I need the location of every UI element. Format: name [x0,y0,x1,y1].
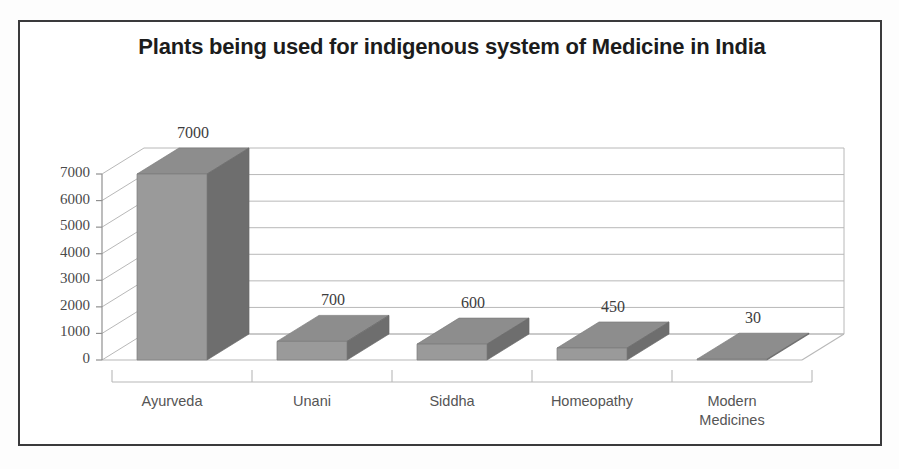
bar-side-face-0 [207,148,249,360]
bar-front-face-2 [417,344,487,360]
y-tick-label-2000: 2000 [30,297,90,314]
plot-area: 01000200030004000500060007000 AyurvedaUn… [20,22,884,448]
y-tick-label-3000: 3000 [30,270,90,287]
y-tick-label-7000: 7000 [30,164,90,181]
bar-front-face-1 [277,341,347,360]
chart-frame: Plants being used for indigenous system … [18,20,882,446]
x-category-label-3: Homeopathy [532,392,652,411]
x-category-label-4: Modern Medicines [672,392,792,430]
bar-data-label-2: 600 [433,294,513,312]
x-category-label-0: Ayurveda [112,392,232,411]
bar-front-face-4 [697,359,767,360]
bar-data-label-3: 450 [573,298,653,316]
bar-front-face-0 [137,174,207,360]
bar-data-label-1: 700 [293,291,373,309]
y-tick-label-4000: 4000 [30,244,90,261]
plot-3d-canvas [20,22,884,448]
y-tick-label-6000: 6000 [30,191,90,208]
x-category-label-2: Siddha [392,392,512,411]
y-tick-label-0: 0 [30,350,90,367]
bar-front-face-3 [557,348,627,360]
y-tick-label-5000: 5000 [30,217,90,234]
x-category-label-1: Unani [252,392,372,411]
bar-data-label-4: 30 [713,309,793,327]
screenshot-root: Plants being used for indigenous system … [0,0,899,469]
y-tick-label-1000: 1000 [30,323,90,340]
bar-data-label-0: 7000 [153,124,233,142]
